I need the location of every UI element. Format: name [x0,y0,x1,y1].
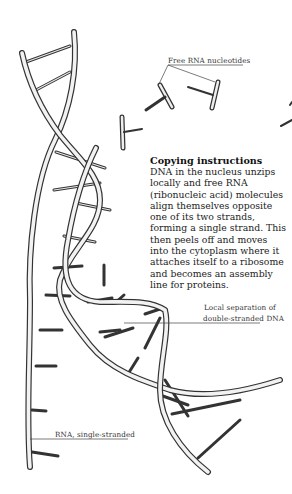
caption-line: one of its two strands, [150,211,292,222]
caption-line: DNA in the nucleus unzips [150,166,292,177]
caption-line: then peels off and moves [150,234,292,245]
caption-line: locally and free RNA [150,177,292,188]
caption-line: attaches itself to a ribosome [150,256,292,267]
caption-line: forming a single strand. This [150,222,292,233]
free-nucleotides [122,82,292,148]
caption-line: into the cytoplasm where it [150,245,292,256]
caption-line: and becomes an assembly [150,268,292,279]
caption-block: Copying instructions DNA in the nucleus … [150,155,292,290]
caption-line: align themselves opposite [150,200,292,211]
label-free-rna-nucleotides: Free RNA nucleotides [168,56,250,65]
caption-line: line for proteins. [150,279,292,290]
label-local-separation-1: Local separation of [204,303,276,312]
label-local-separation-2: double-stranded DNA [203,314,284,323]
caption-line: (ribonucleic acid) molecules [150,189,292,200]
label-rna-single-stranded: RNA, single-stranded [55,430,135,439]
caption-title: Copying instructions [150,155,292,166]
caption-body: DNA in the nucleus unzips locally and fr… [150,166,292,290]
